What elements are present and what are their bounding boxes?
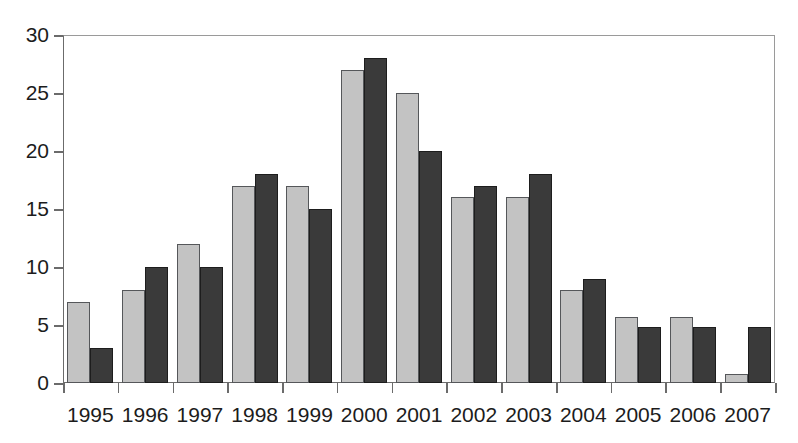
bar-1999-dark-gray-series [309,209,332,383]
y-axis-tick-label: 15 [26,196,49,221]
x-axis-tick-mark [665,383,667,393]
bar-group [337,35,392,383]
x-axis-label-2006: 2006 [669,402,716,427]
bar-1998-light-gray-series [232,186,255,383]
y-axis-tick-label: 25 [26,80,49,105]
x-axis-tick-mark [282,383,284,393]
bar-2003-dark-gray-series [529,174,552,383]
bar-1996-dark-gray-series [145,267,168,383]
bar-group [501,35,556,383]
x-axis-label-1999: 1999 [286,402,333,427]
bar-group [611,35,666,383]
x-axis-label-2001: 2001 [396,402,443,427]
y-axis: 051015202530 [0,35,63,383]
y-axis-tick-mark [54,267,63,269]
x-axis-tick-mark [63,383,65,393]
y-axis-tick-label: 5 [37,312,49,337]
bar-2001-light-gray-series [396,93,419,383]
bar-2002-dark-gray-series [474,186,497,383]
bar-1997-light-gray-series [177,244,200,383]
x-axis-label-2005: 2005 [615,402,662,427]
bar-group [63,35,118,383]
bar-2007-dark-gray-series [748,327,771,383]
bar-group [665,35,720,383]
x-axis-tick-mark [556,383,558,393]
x-axis-label-1996: 1996 [122,402,169,427]
bar-chart: 051015202530 199519961997199819992000200… [0,0,798,443]
x-axis-tick-mark [611,383,613,393]
y-axis-tick-mark [54,93,63,95]
x-axis-label-1998: 1998 [231,402,278,427]
x-axis-tick-mark [173,383,175,393]
bar-group [556,35,611,383]
x-axis-label-2002: 2002 [450,402,497,427]
y-axis-tick-label: 0 [37,370,49,395]
x-axis-label-2000: 2000 [341,402,388,427]
bar-2001-dark-gray-series [419,151,442,383]
y-axis-tick-mark [54,325,63,327]
x-axis-tick-mark [227,383,229,393]
bar-1997-dark-gray-series [200,267,223,383]
bar-2006-light-gray-series [670,317,693,383]
bars-layer [63,35,775,383]
x-axis-tick-mark [720,383,722,393]
x-axis: 1995199619971998199920002001200220032004… [63,383,775,443]
bar-group [173,35,228,383]
bar-2007-light-gray-series [725,374,748,383]
y-axis-tick-label: 20 [26,138,49,163]
bar-group [446,35,501,383]
x-axis-label-1995: 1995 [67,402,114,427]
bar-1998-dark-gray-series [255,174,278,383]
x-axis-label-2007: 2007 [724,402,771,427]
x-axis-tick-mark [337,383,339,393]
bar-2000-light-gray-series [341,70,364,383]
x-axis-tick-mark [775,383,777,393]
bar-1995-dark-gray-series [90,348,113,383]
x-axis-tick-mark [446,383,448,393]
bar-2002-light-gray-series [451,197,474,383]
bar-2004-dark-gray-series [583,279,606,383]
bar-2000-dark-gray-series [364,58,387,383]
bar-1995-light-gray-series [67,302,90,383]
bar-group [720,35,775,383]
bar-group [118,35,173,383]
bar-2005-dark-gray-series [638,327,661,383]
x-axis-tick-mark [392,383,394,393]
bar-2005-light-gray-series [615,317,638,383]
y-axis-tick-mark [54,35,63,37]
bar-group [282,35,337,383]
y-axis-tick-label: 30 [26,22,49,47]
y-axis-tick-label: 10 [26,254,49,279]
bar-2004-light-gray-series [560,290,583,383]
x-axis-tick-mark [501,383,503,393]
bar-group [227,35,282,383]
bar-1999-light-gray-series [286,186,309,383]
bar-2006-dark-gray-series [693,327,716,383]
x-axis-label-1997: 1997 [177,402,224,427]
bar-1996-light-gray-series [122,290,145,383]
y-axis-tick-mark [54,209,63,211]
bar-2003-light-gray-series [506,197,529,383]
y-axis-tick-mark [54,383,63,385]
x-axis-label-2004: 2004 [560,402,607,427]
bar-group [392,35,447,383]
x-axis-label-2003: 2003 [505,402,552,427]
x-axis-tick-mark [118,383,120,393]
y-axis-tick-mark [54,151,63,153]
